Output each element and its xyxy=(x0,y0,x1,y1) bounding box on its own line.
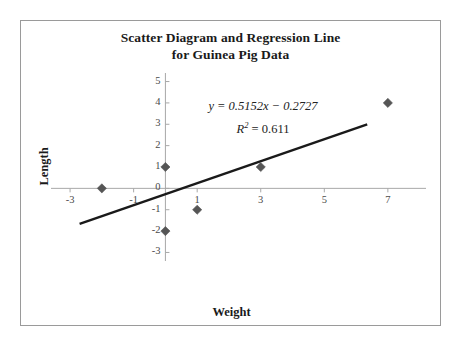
data-point-marker xyxy=(161,162,170,171)
plot-area: y = 0.5152x − 0.2727 R2 = 0.611 -3-11357… xyxy=(21,21,442,327)
x-axis-tick-label: 3 xyxy=(249,194,273,205)
data-point-marker xyxy=(161,226,170,235)
y-axis-title: Length xyxy=(37,122,52,212)
data-point-marker xyxy=(383,98,392,107)
r-squared-value: = 0.611 xyxy=(248,122,289,136)
x-axis-title: Weight xyxy=(21,305,442,320)
y-axis-tick-label: 1 xyxy=(142,160,160,171)
data-point-marker xyxy=(193,205,202,214)
regression-equation-annotation: y = 0.5152x − 0.2727 R2 = 0.611 xyxy=(173,97,353,139)
y-axis-tick-label: -2 xyxy=(142,224,160,235)
data-point-marker xyxy=(97,184,106,193)
scatter-plot-svg xyxy=(21,21,442,327)
y-axis-tick-label: -3 xyxy=(142,245,160,256)
data-point-marker xyxy=(256,162,265,171)
y-axis-tick-label: 0 xyxy=(142,181,160,192)
chart-frame: Scatter Diagram and Regression Line for … xyxy=(20,20,441,326)
y-axis-tick-label: 4 xyxy=(142,96,160,107)
r-squared-annotation: R2 = 0.611 xyxy=(173,116,353,139)
y-axis-tick-label: -1 xyxy=(142,203,160,214)
x-axis-tick-label: 1 xyxy=(185,194,209,205)
regression-line xyxy=(80,124,368,224)
y-axis-tick-label: 5 xyxy=(142,75,160,86)
y-axis-tick-label: 2 xyxy=(142,139,160,150)
x-axis-tick-label: 5 xyxy=(312,194,336,205)
x-axis-tick-label: 7 xyxy=(376,194,400,205)
chart-screenshot: Scatter Diagram and Regression Line for … xyxy=(0,0,461,349)
y-axis-tick-label: 3 xyxy=(142,117,160,128)
regression-equation-text: y = 0.5152x − 0.2727 xyxy=(208,99,317,113)
x-axis-tick-label: -3 xyxy=(58,194,82,205)
